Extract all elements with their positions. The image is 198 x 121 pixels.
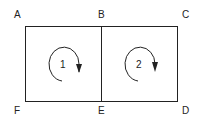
arrowhead-1-icon (76, 64, 82, 73)
node-label-f: F (14, 105, 20, 116)
loop-label-1: 1 (60, 59, 66, 70)
node-label-a: A (14, 9, 21, 20)
node-label-c: C (182, 9, 189, 20)
loop-label-2: 2 (136, 59, 142, 70)
node-label-b: B (98, 9, 105, 20)
circuit-diagram: A B C F E D 1 2 (0, 0, 198, 121)
arrowhead-2-icon (152, 62, 158, 72)
node-label-d: D (182, 105, 189, 116)
node-label-e: E (98, 105, 105, 116)
